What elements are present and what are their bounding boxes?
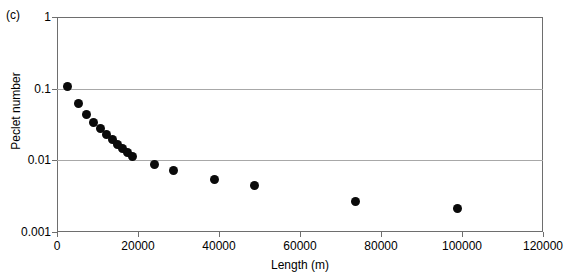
gridline-y <box>57 89 543 90</box>
x-tick-label: 0 <box>54 240 61 252</box>
x-axis-title: Length (m) <box>57 258 543 272</box>
x-tick-mark <box>57 232 58 237</box>
x-tick-mark <box>462 232 463 237</box>
y-tick-label: 0.1 <box>34 83 51 95</box>
x-tick-mark <box>543 232 544 237</box>
plot-area <box>57 17 543 232</box>
x-tick-mark <box>138 232 139 237</box>
y-tick-mark <box>52 160 57 161</box>
scatter-point <box>169 166 178 175</box>
y-tick-label: 1 <box>44 11 51 23</box>
scatter-point <box>74 99 83 108</box>
y-tick-label: 0.001 <box>21 226 51 238</box>
x-tick-mark <box>219 232 220 237</box>
scatter-point <box>63 82 72 91</box>
x-tick-label: 40000 <box>202 240 235 252</box>
x-tick-label: 120000 <box>523 240 563 252</box>
x-axis-tick-labels: 020000400006000080000100000120000 <box>57 240 543 256</box>
x-tick-label: 20000 <box>121 240 154 252</box>
scatter-point <box>150 160 159 169</box>
y-tick-mark <box>52 89 57 90</box>
scatter-point <box>82 110 91 119</box>
plot-frame <box>57 17 543 232</box>
scatter-point <box>351 197 360 206</box>
y-tick-label: 0.01 <box>28 154 51 166</box>
x-tick-label: 60000 <box>283 240 316 252</box>
x-tick-mark <box>381 232 382 237</box>
y-axis-title: Peclet number <box>9 57 23 165</box>
x-tick-mark <box>300 232 301 237</box>
x-tick-label: 80000 <box>364 240 397 252</box>
figure-panel-c: (c) 10.10.010.001 0200004000060000800001… <box>0 0 566 277</box>
scatter-point <box>453 204 462 213</box>
y-axis-tick-labels: 10.10.010.001 <box>0 17 51 232</box>
x-tick-label: 100000 <box>442 240 482 252</box>
y-tick-mark <box>52 17 57 18</box>
